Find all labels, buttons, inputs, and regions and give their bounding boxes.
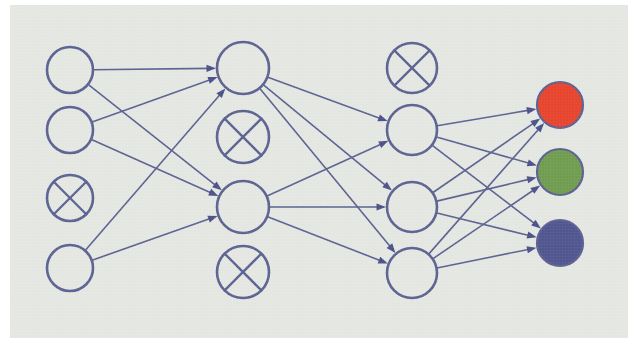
node-circle-h1c (217, 181, 269, 233)
edge-i1-to-h1a (94, 68, 210, 69)
node-h2d[interactable] (387, 248, 437, 298)
edge-h2b-to-o1 (437, 110, 529, 126)
node-o3[interactable] (537, 220, 583, 266)
node-h1b-dropped[interactable] (217, 111, 269, 163)
node-h1a[interactable] (217, 42, 269, 94)
node-circle-i4 (47, 245, 93, 291)
node-i1[interactable] (47, 47, 93, 93)
edge-i2-to-h1c (91, 140, 211, 194)
node-circle-h1a (217, 42, 269, 94)
edge-h1c-to-h2b (267, 144, 382, 196)
arrowhead-i4-to-h1c (207, 216, 217, 223)
edge-h1a-to-h2b (268, 77, 381, 119)
arrowhead-h1c-to-h2c (377, 203, 387, 210)
node-circle-h2c (387, 182, 437, 232)
node-h2b[interactable] (387, 105, 437, 155)
arrowhead-h2b-to-o1 (526, 107, 536, 114)
edge-h1c-to-h2d (268, 217, 382, 261)
arrowhead-h2c-to-o2 (527, 176, 537, 183)
arrowhead-h2d-to-o3 (526, 246, 536, 253)
neural-network-figure (0, 0, 634, 358)
edges-group (85, 65, 544, 268)
edge-h2c-to-o2 (437, 179, 530, 201)
arrowhead-h2c-to-o1 (530, 119, 540, 127)
arrowhead-h2c-to-o3 (527, 232, 537, 239)
edge-h2d-to-o1 (429, 128, 540, 254)
node-i3-dropped[interactable] (47, 175, 93, 221)
arrowhead-i2-to-h1c (208, 189, 218, 196)
arrowhead-i2-to-h1a (207, 77, 217, 84)
node-circle-i1 (47, 47, 93, 93)
arrowhead-i1-to-h1a (206, 65, 216, 72)
node-circle-i2 (47, 107, 93, 153)
arrowhead-h1c-to-h2d (378, 257, 388, 264)
node-h2a-dropped[interactable] (387, 43, 437, 93)
arrowhead-h2d-to-o2 (530, 186, 540, 194)
node-circle-h2b (387, 105, 437, 155)
edge-h1a-to-h2d (260, 88, 391, 247)
node-o1[interactable] (537, 82, 583, 128)
node-h2c[interactable] (387, 182, 437, 232)
arrowhead-h2b-to-o3 (531, 220, 541, 229)
node-h1d-dropped[interactable] (217, 246, 269, 298)
node-i2[interactable] (47, 107, 93, 153)
edge-h2d-to-o2 (433, 189, 534, 258)
node-circle-o3 (537, 220, 583, 266)
arrowhead-h2b-to-o2 (527, 159, 537, 166)
arrowhead-h1a-to-h2b (377, 114, 387, 121)
node-circle-o1 (537, 82, 583, 128)
edge-i4-to-h1c (92, 218, 211, 260)
edge-h1a-to-h2c (263, 85, 386, 186)
node-i4[interactable] (47, 245, 93, 291)
node-h1c[interactable] (217, 181, 269, 233)
network-canvas (0, 0, 634, 358)
arrowhead-h1c-to-h2b (378, 141, 388, 148)
node-o2[interactable] (537, 149, 583, 195)
edge-h2d-to-o3 (437, 249, 530, 268)
node-circle-o2 (537, 149, 583, 195)
node-circle-h2d (387, 248, 437, 298)
